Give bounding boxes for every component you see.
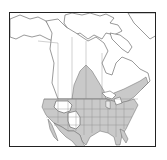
north-america-range-map [10, 13, 156, 147]
baffin-island [110, 33, 132, 53]
map-frame [9, 12, 156, 147]
greenland [128, 13, 156, 39]
